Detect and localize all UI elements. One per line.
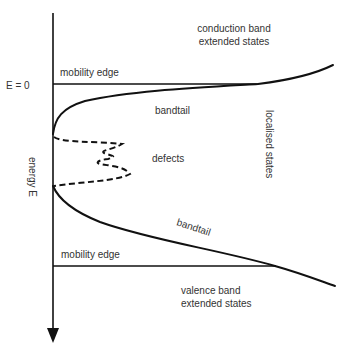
lower-bandtail-label: bandtail [175,216,212,237]
defects-curve [54,137,130,186]
lower-mobility-edge-label: mobility edge [61,249,120,260]
valence-band-label-line1: valence band [181,285,241,296]
energy-axis-arrowhead [47,328,59,343]
valence-band-label-line2: extended states [181,298,252,309]
conduction-band-label-line1: conduction band [197,23,270,34]
energy-axis-label: energy E [27,157,38,197]
upper-bandtail-label: bandtail [155,105,190,116]
valence-bandtail-curve [53,186,335,286]
upper-mobility-edge-label: mobility edge [60,67,119,78]
defects-label: defects [152,153,184,164]
conduction-band-label-line2: extended states [199,36,270,47]
energy-zero-label: E = 0 [6,80,30,91]
localised-states-label: localised states [264,110,275,178]
band-diagram: E = 0 energy E conduction band extended … [0,0,351,350]
